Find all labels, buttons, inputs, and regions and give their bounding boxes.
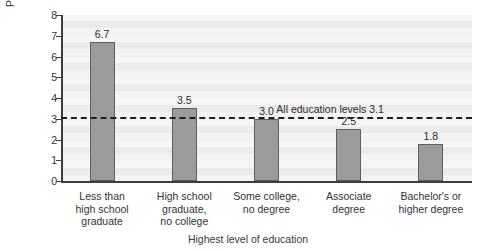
y-tick-label: 1: [35, 155, 57, 166]
bar: [172, 108, 197, 181]
y-tick-mark: [56, 181, 61, 182]
bar: [254, 119, 279, 181]
x-category-label: Less than high school graduate: [76, 190, 129, 228]
x-axis-line: [61, 181, 472, 183]
y-tick-label: 3: [35, 114, 57, 125]
y-tick-mark: [56, 119, 61, 120]
x-category-label: High school graduate, no college: [157, 190, 212, 228]
bar: [418, 144, 443, 181]
y-tick-mark: [56, 36, 61, 37]
bar-value-label: 3.0: [259, 105, 274, 119]
bar-chart-figure: Percent unemployed 012345678 6.73.53.02.…: [0, 0, 496, 251]
y-tick-label: 7: [35, 31, 57, 42]
bar-value-label: 1.8: [424, 130, 439, 144]
x-category-label: Associate degree: [326, 190, 372, 215]
y-tick-mark: [56, 140, 61, 141]
y-tick-mark: [56, 15, 61, 16]
y-tick-mark: [56, 77, 61, 78]
y-tick-label: 2: [35, 134, 57, 145]
plot-area: 012345678 6.73.53.02.51.8 All education …: [61, 15, 472, 183]
reference-line-label: All education levels 3.1: [276, 103, 383, 117]
y-tick-label: 0: [35, 176, 57, 187]
bar: [336, 129, 361, 181]
bar: [90, 42, 115, 181]
y-tick-label: 4: [35, 93, 57, 104]
y-tick-label: 8: [35, 10, 57, 21]
bar-value-label: 6.7: [95, 28, 110, 42]
y-axis-title: Percent unemployed: [4, 0, 18, 43]
y-tick-label: 6: [35, 51, 57, 62]
x-category-label: Some college, no degree: [233, 190, 300, 215]
y-tick-mark: [56, 160, 61, 161]
y-tick-mark: [56, 57, 61, 58]
x-category-label: Bachelor's or higher degree: [398, 190, 463, 215]
bar-value-label: 3.5: [177, 95, 192, 109]
x-axis-title: Highest level of education: [0, 233, 496, 245]
y-axis-line: [61, 15, 63, 183]
bar-value-label: 2.5: [341, 116, 356, 130]
y-tick-mark: [56, 98, 61, 99]
y-tick-label: 5: [35, 72, 57, 83]
